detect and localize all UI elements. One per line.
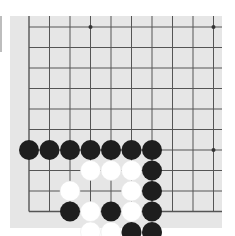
star-point — [212, 148, 216, 152]
black-stone[interactable] — [122, 222, 142, 236]
black-stone[interactable] — [19, 140, 39, 160]
star-point — [89, 25, 93, 29]
black-stone[interactable] — [142, 181, 162, 201]
white-stone[interactable] — [81, 222, 101, 236]
go-board-grid[interactable] — [0, 0, 235, 236]
black-stone[interactable] — [60, 202, 80, 222]
black-stone[interactable] — [101, 202, 121, 222]
white-stone[interactable] — [122, 161, 142, 181]
white-stone[interactable] — [122, 181, 142, 201]
star-point — [212, 25, 216, 29]
white-stone[interactable] — [101, 161, 121, 181]
white-stone[interactable] — [81, 202, 101, 222]
black-stone[interactable] — [40, 140, 60, 160]
white-stone[interactable] — [60, 181, 80, 201]
white-stone[interactable] — [122, 202, 142, 222]
black-stone[interactable] — [81, 140, 101, 160]
black-stone[interactable] — [142, 202, 162, 222]
black-stone[interactable] — [142, 140, 162, 160]
white-stone[interactable] — [81, 161, 101, 181]
white-stone[interactable] — [101, 222, 121, 236]
black-stone[interactable] — [60, 140, 80, 160]
black-stone[interactable] — [101, 140, 121, 160]
black-stone[interactable] — [122, 140, 142, 160]
black-stone[interactable] — [142, 161, 162, 181]
black-stone[interactable] — [142, 222, 162, 236]
